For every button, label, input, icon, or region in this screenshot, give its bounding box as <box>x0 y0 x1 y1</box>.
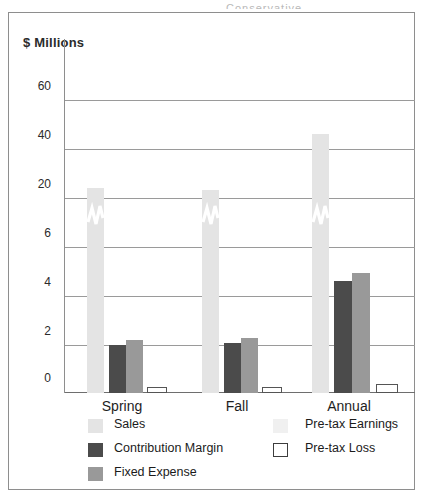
cropped-header-text: AlternativeConservative <box>200 0 420 9</box>
bar-annual-fixed-expense[interactable] <box>352 273 370 393</box>
y-tick-label-60: 60 <box>17 79 51 93</box>
bar-spring-pretax-loss[interactable] <box>147 387 167 393</box>
legend-swatch-contribution-margin-icon <box>88 443 103 457</box>
x-axis-label-spring: Spring <box>67 398 177 414</box>
x-axis-label-fall: Fall <box>182 398 292 414</box>
bar-group-spring <box>83 83 183 393</box>
legend-label-pretax-loss: Pre-tax Loss <box>305 441 375 455</box>
bar-group-annual <box>308 83 413 393</box>
legend-swatch-pretax-earnings-icon <box>273 419 288 433</box>
y-tick-label-2: 2 <box>17 324 51 338</box>
y-tick-label-0: 0 <box>17 371 51 385</box>
bar-spring-sales[interactable] <box>87 188 104 393</box>
bar-annual-pretax-loss[interactable] <box>376 384 398 393</box>
legend-label-contribution-margin: Contribution Margin <box>114 441 223 455</box>
bar-group-fall <box>198 83 298 393</box>
bar-spring-contribution-margin[interactable] <box>109 345 126 393</box>
legend-swatch-sales-icon <box>88 419 103 433</box>
legend-swatch-pretax-loss-icon <box>273 443 288 457</box>
y-tick-label-40: 40 <box>17 128 51 142</box>
legend-swatch-fixed-expense-icon <box>88 467 103 481</box>
cropped-header-right: Conservative <box>226 2 302 9</box>
y-tick-label-6: 6 <box>17 226 51 240</box>
y-tick-label-4: 4 <box>17 275 51 289</box>
plot-area <box>65 83 415 393</box>
legend-label-sales: Sales <box>114 417 145 431</box>
bar-annual-contribution-margin[interactable] <box>334 281 352 393</box>
legend-label-pretax-earnings: Pre-tax Earnings <box>305 417 398 431</box>
x-axis-label-annual: Annual <box>294 398 404 414</box>
bar-fall-fixed-expense[interactable] <box>241 338 258 393</box>
bar-fall-sales[interactable] <box>202 190 219 393</box>
y-axis-title: $ Millions <box>23 35 84 50</box>
legend-label-fixed-expense: Fixed Expense <box>114 465 197 479</box>
bar-fall-contribution-margin[interactable] <box>224 343 241 393</box>
bar-annual-sales[interactable] <box>312 134 329 393</box>
y-tick-label-20: 20 <box>17 177 51 191</box>
bar-fall-pretax-loss[interactable] <box>262 387 282 393</box>
bar-spring-fixed-expense[interactable] <box>126 340 143 393</box>
